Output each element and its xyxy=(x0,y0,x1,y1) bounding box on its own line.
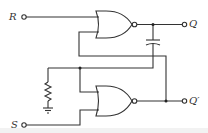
junction-q-not xyxy=(165,100,168,103)
junction-q xyxy=(152,23,155,26)
s-wire xyxy=(26,110,99,125)
ground-icon xyxy=(43,108,53,113)
gate-bottom-input-1-wire xyxy=(80,68,99,92)
circuit-diagram xyxy=(0,0,208,133)
q-not-terminal xyxy=(182,99,186,103)
r-input-label: R xyxy=(9,12,17,22)
q-not-output-label: Q′ xyxy=(189,96,199,106)
nor-gate-bottom xyxy=(96,86,137,116)
s-terminal xyxy=(22,123,26,127)
s-input-label: S xyxy=(11,120,18,130)
r-terminal xyxy=(22,15,26,19)
junction-cap-res xyxy=(79,67,82,70)
resistor xyxy=(45,82,51,101)
q-output-label: Q xyxy=(189,19,197,29)
nor-gate-top xyxy=(96,11,137,38)
q-terminal xyxy=(182,22,186,26)
